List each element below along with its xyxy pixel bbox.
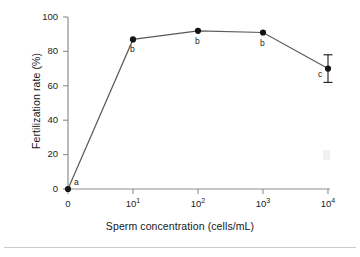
- x-tick-label-10e2: 102: [176, 198, 220, 209]
- data-point-4: [325, 66, 331, 72]
- x-axis-title: Sperm concentration (cells/mL): [0, 220, 360, 232]
- point-letter-b-10e1: b: [130, 45, 135, 54]
- data-point-3: [260, 29, 266, 35]
- y-tick-label-0: 0: [30, 184, 58, 194]
- x-tick-base-0: 0: [65, 198, 70, 209]
- x-tick-label-0: 0: [46, 198, 90, 209]
- x-tick-exp-3: 3: [266, 197, 270, 204]
- x-tick-base-3: 10: [256, 198, 267, 209]
- page-divider-rule: [4, 247, 356, 248]
- x-tick-base-4: 10: [321, 198, 332, 209]
- point-letter-a: a: [74, 178, 79, 187]
- point-letter-c-10e4: c: [318, 70, 322, 79]
- chart-figure: 100 80 60 40 20 0 0 101 102 103 104 a b …: [0, 0, 360, 257]
- x-tick-exp-1: 1: [136, 197, 140, 204]
- point-letter-b-10e3: b: [260, 39, 265, 48]
- scan-artifact: [323, 150, 330, 160]
- data-point-2: [195, 28, 201, 34]
- y-axis-title: Fertilization rate (%): [30, 21, 42, 181]
- x-tick-label-10e4: 104: [306, 198, 350, 209]
- data-line: [68, 31, 328, 189]
- x-tick-label-10e3: 103: [241, 198, 285, 209]
- x-tick-exp-2: 2: [201, 197, 205, 204]
- point-letter-b-10e2: b: [195, 37, 200, 46]
- data-point-0: [65, 186, 71, 192]
- x-tick-base-2: 10: [191, 198, 202, 209]
- y-axis-ticks: [63, 17, 68, 189]
- data-markers: [65, 28, 331, 192]
- x-tick-base-1: 10: [126, 198, 137, 209]
- x-tick-label-10e1: 101: [111, 198, 155, 209]
- chart-canvas: [0, 0, 360, 257]
- x-tick-exp-4: 4: [331, 197, 335, 204]
- data-point-1: [130, 36, 136, 42]
- x-axis-ticks: [68, 189, 328, 194]
